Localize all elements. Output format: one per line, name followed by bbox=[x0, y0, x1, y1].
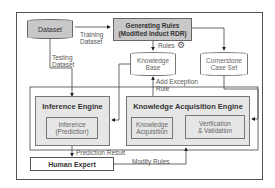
modify-rules-label: Modify Rules bbox=[132, 158, 170, 165]
testing-dataset-label: Testing Dataset bbox=[52, 54, 74, 68]
verification-validation-node: Verification & Validation bbox=[185, 115, 245, 139]
dataset-label: Dataset bbox=[38, 26, 62, 33]
inference-engine-group: Inference Engine Inference (Prediction) bbox=[35, 96, 110, 146]
knowledge-acquisition-node: Knowledge Acquisition bbox=[131, 117, 173, 139]
dataset-node: Dataset bbox=[27, 19, 73, 39]
knowledge-base-node: Knowledge Base bbox=[130, 52, 176, 76]
training-dataset-label: Training Dataset bbox=[80, 31, 103, 45]
generating-rules-node: Generating Rules (Modified Induct RDR) bbox=[113, 18, 192, 41]
knowledge-acquisition-engine-group: Knowledge Acquisition Engine Knowledge A… bbox=[126, 96, 250, 146]
prediction-result-label: Prediction Result bbox=[76, 149, 125, 156]
cornerstone-case-set-node: Cornerstone Case Set bbox=[200, 52, 248, 76]
inference-prediction-node: Inference (Prediction) bbox=[46, 117, 98, 139]
rules-label: Rules bbox=[158, 42, 175, 49]
human-expert-node: Human Expert bbox=[30, 157, 114, 171]
add-exception-rule-label: Add Exception Rule bbox=[156, 78, 198, 92]
gears-icon: ⚙ bbox=[177, 41, 185, 50]
